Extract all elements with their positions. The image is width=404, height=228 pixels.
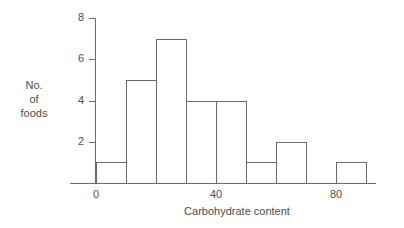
- histogram-bar: [156, 39, 187, 183]
- histogram-bar: [126, 80, 157, 183]
- plot-area: [96, 18, 378, 183]
- y-axis-tick: [89, 101, 96, 102]
- x-axis-tick-label: 40: [196, 189, 236, 200]
- y-axis-title-line-3: foods: [8, 106, 60, 120]
- y-axis-tick-label: 2: [60, 136, 84, 147]
- y-axis-tick-label: 4: [60, 95, 84, 106]
- histogram-bar: [246, 162, 277, 183]
- y-axis-title-line-2: of: [8, 92, 60, 106]
- x-axis-line: [70, 183, 376, 184]
- x-axis-title: Carbohydrate content: [96, 205, 378, 217]
- y-axis-tick: [89, 142, 96, 143]
- histogram-bar: [96, 162, 127, 183]
- histogram-bar: [186, 101, 217, 184]
- histogram-bar: [336, 162, 367, 183]
- y-axis-tick: [89, 59, 96, 60]
- histogram-figure: No. of foods Carbohydrate content 246804…: [0, 0, 404, 228]
- y-axis-title: No. of foods: [8, 78, 60, 120]
- y-axis-tick-label: 8: [60, 12, 84, 23]
- x-axis-tick-label: 0: [76, 189, 116, 200]
- y-axis-tick-label: 6: [60, 53, 84, 64]
- histogram-bar: [216, 101, 247, 184]
- y-axis-title-line-1: No.: [8, 78, 60, 92]
- x-axis-tick-label: 80: [316, 189, 356, 200]
- y-axis-tick: [89, 18, 96, 19]
- histogram-bar: [276, 142, 307, 183]
